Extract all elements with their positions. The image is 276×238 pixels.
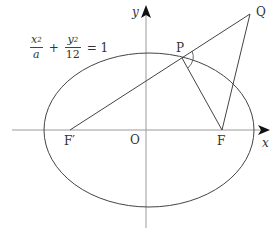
point-P-label: P	[176, 42, 184, 54]
segment-Fprime-Q	[70, 14, 250, 130]
point-Q-label: Q	[256, 6, 266, 18]
point-F-prime-label: F′	[64, 135, 75, 147]
x-axis-label: x	[262, 137, 269, 149]
segment-P-F	[182, 58, 222, 130]
point-F-label: F	[217, 135, 225, 147]
segment-Q-F	[222, 14, 250, 130]
plus-sign: +	[49, 41, 59, 55]
origin-label: O	[130, 134, 140, 146]
equals-one: = 1	[87, 41, 109, 55]
y-axis-label: y	[132, 6, 139, 18]
ellipse-equation: x2 a + y2 12 = 1	[28, 34, 112, 61]
fraction-y2-over-12: y2 12	[65, 34, 81, 61]
fraction-x2-over-a: x2 a	[30, 34, 43, 61]
